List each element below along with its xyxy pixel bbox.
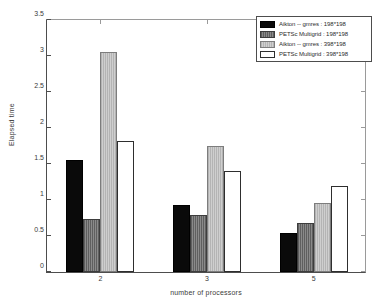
y-axis-tick-mirror [361,235,365,236]
x-axis-tick-label: 5 [312,275,316,282]
legend-item-label: Aikton -- gmres : 198*198 [279,21,346,27]
legend-swatch-icon [260,21,275,28]
legend-item-label: PETSc Multigrid : 198*198 [279,31,348,37]
y-axis-tick-mirror [361,271,365,272]
y-axis-tick-label: 2 [40,118,44,125]
y-axis-tick [47,127,51,128]
y-axis-tick-label: 3 [40,46,44,53]
x-axis-label: number of processors [46,289,366,296]
legend-item-label: PETSc Multigrid : 398*198 [279,51,348,57]
bar [280,233,297,272]
bar [83,219,100,272]
legend-item: PETSc Multigrid : 198*198 [260,29,368,39]
bar [224,171,241,272]
y-axis-tick-mirror [361,199,365,200]
x-axis-tick-label: 2 [98,275,102,282]
bar [100,52,117,272]
legend: Aikton -- gmres : 198*198PETSc Multigrid… [256,16,372,62]
y-axis-tick [47,163,51,164]
legend-swatch-icon [260,51,275,58]
y-axis-tick-label: 1.5 [34,154,44,161]
legend-item: Aikton -- gmres : 198*198 [260,19,368,29]
bar [331,186,348,272]
x-axis-tick-mirror [207,20,208,24]
bar [173,205,190,272]
bar [207,146,224,272]
legend-item: Aikton -- gmres : 398*198 [260,39,368,49]
y-axis-tick-label: 1 [40,190,44,197]
y-axis-label: Elapsed time [8,103,15,146]
legend-item: PETSc Multigrid : 398*198 [260,49,368,59]
y-axis-tick-mirror [361,127,365,128]
y-axis-tick-label: 3.5 [34,10,44,17]
y-axis-tick-label: 2.5 [34,82,44,89]
bar [297,223,314,272]
bar [66,160,83,272]
bar [314,203,331,272]
y-axis-tick-mirror [361,91,365,92]
figure-canvas: Elapsed time 00.511.522.533.5 235 number… [0,0,383,305]
legend-swatch-icon [260,41,275,48]
y-axis-tick-mirror [361,163,365,164]
y-axis-tick [47,91,51,92]
x-axis-tick-label: 3 [205,275,209,282]
y-axis-tick-label: 0.5 [34,226,44,233]
bar [117,141,134,272]
y-axis-tick-label: 0 [40,262,44,269]
x-axis-tick-mirror [100,20,101,24]
y-axis-tick [47,19,51,20]
y-axis-tick [47,271,51,272]
bar [190,215,207,272]
y-axis-tick [47,199,51,200]
legend-swatch-icon [260,31,275,38]
y-axis-tick [47,235,51,236]
legend-item-label: Aikton -- gmres : 398*198 [279,41,346,47]
y-axis-tick [47,55,51,56]
